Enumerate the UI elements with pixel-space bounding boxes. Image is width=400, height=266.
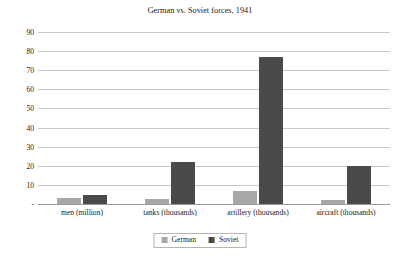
legend-label: German [172, 236, 196, 244]
y-tick-label: 50 [6, 104, 34, 113]
y-tick-label: - [6, 200, 34, 209]
bar-soviet-0 [83, 195, 107, 204]
bar-soviet-2 [259, 57, 283, 204]
bars-layer [38, 32, 390, 204]
bar-german-0 [57, 198, 81, 204]
bar-german-1 [145, 199, 169, 204]
y-tick-label: 90 [6, 28, 34, 37]
category-label: aircraft (thousands) [302, 208, 390, 217]
chart-legend: GermanSoviet [154, 233, 247, 248]
y-tick-label: 70 [6, 66, 34, 75]
legend-swatch-icon [209, 237, 215, 243]
bar-german-3 [321, 200, 345, 204]
y-tick-label: 60 [6, 85, 34, 94]
category-label: artillery (thousands) [214, 208, 302, 217]
legend-item-german[interactable]: German [162, 236, 196, 244]
bar-chart: German vs. Soviet forces, 1941 -10203040… [0, 0, 400, 266]
category-label: tanks (thousands) [126, 208, 214, 217]
y-tick-label: 40 [6, 123, 34, 132]
y-tick-label: 30 [6, 142, 34, 151]
legend-label: Soviet [219, 236, 238, 244]
category-label: men (million) [38, 208, 126, 217]
chart-title: German vs. Soviet forces, 1941 [0, 6, 400, 15]
bar-soviet-3 [347, 166, 371, 204]
y-tick-label: 10 [6, 180, 34, 189]
y-tick-label: 80 [6, 47, 34, 56]
bar-german-2 [233, 191, 257, 204]
legend-swatch-icon [162, 237, 168, 243]
legend-item-soviet[interactable]: Soviet [209, 236, 238, 244]
y-tick-label: 20 [6, 161, 34, 170]
bar-soviet-1 [171, 162, 195, 204]
